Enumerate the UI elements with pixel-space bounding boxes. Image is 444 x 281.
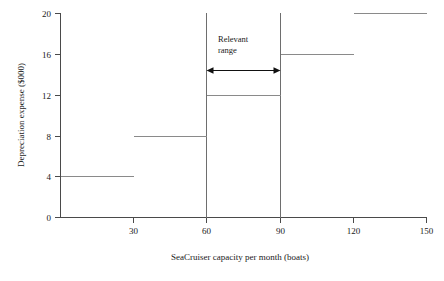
relevant-range-label-line2: range bbox=[218, 45, 237, 55]
relevant-range-label-line1: Relevant bbox=[218, 34, 249, 44]
x-tick-label-90: 90 bbox=[276, 226, 286, 236]
relevant-range-arrow bbox=[207, 67, 281, 73]
y-axis-title: Depreciation expense ($000) bbox=[16, 63, 26, 167]
y-tick-label-4: 4 bbox=[47, 172, 52, 182]
x-axis-ticks bbox=[134, 218, 427, 224]
x-tick-label-120: 120 bbox=[347, 226, 361, 236]
x-tick-label-60: 60 bbox=[202, 226, 212, 236]
step-chart-figure: 20 16 12 8 4 0 30 60 90 120 150 Relevant bbox=[0, 0, 444, 281]
y-tick-label-8: 8 bbox=[47, 132, 52, 142]
y-tick-label-12: 12 bbox=[42, 91, 51, 101]
chart-canvas: 20 16 12 8 4 0 30 60 90 120 150 Relevant bbox=[0, 0, 444, 281]
arrow-head-right bbox=[274, 67, 281, 73]
x-tick-label-30: 30 bbox=[129, 226, 139, 236]
y-axis-ticks bbox=[55, 14, 61, 218]
y-tick-label-16: 16 bbox=[42, 50, 52, 60]
x-axis-title: SeaCruiser capacity per month (boats) bbox=[171, 252, 309, 262]
arrow-head-left bbox=[207, 67, 214, 73]
y-tick-label-0: 0 bbox=[47, 213, 52, 223]
x-tick-label-150: 150 bbox=[420, 226, 434, 236]
y-tick-label-20: 20 bbox=[42, 9, 52, 19]
